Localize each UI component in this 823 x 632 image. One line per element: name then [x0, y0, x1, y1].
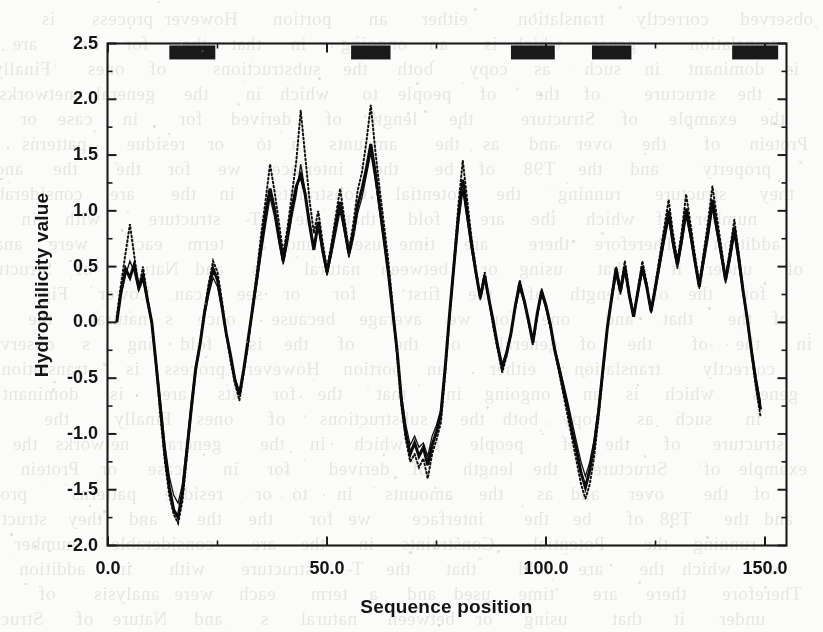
scan-speckle — [545, 186, 546, 187]
scan-speckle — [290, 451, 292, 453]
scan-speckle — [168, 133, 170, 135]
scan-speckle — [226, 384, 228, 386]
scan-speckle — [558, 145, 560, 147]
scan-speckle — [244, 80, 246, 82]
scan-speckle — [732, 43, 733, 44]
scan-speckle — [237, 103, 240, 106]
scan-speckle — [402, 289, 405, 292]
scan-speckle — [204, 302, 207, 305]
scan-speckle — [457, 537, 459, 539]
scan-speckle — [34, 545, 37, 548]
scan-speckle — [472, 372, 474, 374]
scan-speckle — [809, 197, 810, 198]
scan-speckle — [479, 558, 481, 560]
scan-speckle — [778, 180, 780, 182]
y-tick-label: 2.0 — [40, 88, 98, 109]
scan-speckle — [431, 286, 433, 288]
scan-speckle — [637, 384, 639, 386]
scan-speckle — [622, 262, 623, 263]
y-tick-label: -2.0 — [40, 535, 98, 556]
scan-speckle — [340, 187, 342, 189]
scan-speckle — [62, 191, 65, 194]
y-tick-label: 2.5 — [40, 33, 98, 54]
scan-speckle — [418, 384, 420, 386]
x-tick-label: 50.0 — [292, 558, 362, 579]
domain-bar-5 — [732, 45, 778, 59]
scan-speckle — [644, 153, 646, 155]
y-axis-title: Hydrophilicity value — [31, 170, 53, 400]
domain-bar-2 — [351, 45, 390, 59]
scan-speckle — [425, 243, 427, 245]
scan-speckle — [136, 394, 138, 396]
scan-speckle — [48, 550, 50, 552]
scan-speckle — [359, 66, 360, 67]
scan-speckle — [55, 65, 56, 66]
scan-speckle — [627, 441, 629, 443]
scan-speckle — [364, 115, 367, 118]
scan-speckle — [348, 239, 350, 241]
scan-speckle — [818, 132, 819, 133]
scan-speckle — [132, 481, 133, 482]
scan-speckle — [764, 586, 767, 589]
scan-speckle — [129, 27, 131, 29]
hydrophilicity-chart-svg — [0, 0, 823, 632]
scan-speckle — [708, 307, 710, 309]
domain-bar-3 — [511, 45, 555, 59]
y-tick-label: -1.5 — [40, 479, 98, 500]
x-tick-label: 150.0 — [730, 558, 800, 579]
scan-speckle — [0, 178, 2, 180]
scan-speckle — [359, 426, 362, 429]
scan-speckle — [474, 8, 477, 11]
scan-speckle — [701, 279, 704, 282]
scan-speckle — [72, 95, 75, 98]
scan-speckle — [356, 36, 358, 38]
y-tick-label: -1.0 — [40, 423, 98, 444]
scan-speckle — [516, 87, 519, 90]
scan-speckle — [434, 487, 436, 489]
scan-speckle — [692, 321, 693, 322]
scan-speckle — [261, 138, 262, 139]
scan-speckle — [533, 13, 536, 16]
data-series-group — [117, 105, 761, 523]
scan-speckle — [752, 573, 754, 575]
scan-speckle — [726, 344, 728, 346]
scan-speckle — [458, 126, 461, 129]
scan-speckle — [35, 226, 36, 227]
scan-speckle — [525, 567, 528, 570]
scan-speckle — [231, 626, 232, 627]
series-thin-solid-trace — [117, 153, 761, 503]
scan-speckle — [48, 241, 51, 244]
scan-speckle — [68, 380, 71, 383]
scan-speckle — [89, 505, 91, 507]
x-tick-label: 0.0 — [73, 558, 143, 579]
scan-speckle — [318, 77, 321, 80]
scan-speckle — [98, 517, 100, 519]
scan-speckle — [438, 624, 441, 627]
scan-speckle — [610, 564, 612, 566]
scan-speckle — [69, 260, 71, 262]
scan-speckle — [397, 350, 398, 351]
domain-bars-group — [169, 45, 778, 59]
scan-speckle — [815, 399, 817, 401]
domain-bar-1 — [169, 45, 215, 59]
scan-speckle — [158, 1, 160, 3]
scan-speckle — [373, 487, 374, 488]
scan-speckle — [686, 493, 687, 494]
scan-speckle — [687, 124, 689, 126]
scan-speckle — [791, 70, 792, 71]
y-tick-label: 1.5 — [40, 144, 98, 165]
scan-speckle — [489, 601, 492, 604]
hydrophilicity-plot-figure: 2.52.01.51.00.50.0-0.5-1.0-1.5-2.0 0.050… — [0, 0, 823, 632]
scan-speckle — [139, 199, 140, 200]
scan-speckle — [699, 463, 701, 465]
scan-speckle — [762, 569, 763, 570]
scan-speckle — [572, 240, 574, 242]
scan-speckle — [639, 317, 642, 320]
scan-speckle — [769, 108, 770, 109]
scan-speckle — [41, 481, 43, 483]
x-axis-title: Sequence position — [107, 596, 786, 618]
scan-speckle — [323, 209, 324, 210]
scan-speckle — [245, 341, 247, 343]
series-thick-solid-trace — [117, 144, 761, 518]
scan-speckle — [815, 26, 817, 28]
